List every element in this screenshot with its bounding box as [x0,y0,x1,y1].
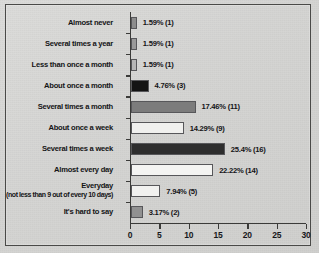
bar-row: It's hard to say3.17% (2) [6,202,310,223]
bar-value-label: 22.22% (14) [219,166,258,175]
bar[interactable] [131,38,137,50]
bar-row: Several times a month17.46% (11) [6,96,310,117]
x-axis-tick [218,224,219,229]
category-label: Less than once a month [0,60,113,69]
category-label: It's hard to say [0,208,113,217]
bar-container: 1.59% (1) [131,17,174,29]
bar[interactable] [131,59,137,71]
category-label: Almost every day [0,166,113,175]
x-axis-tick [130,224,131,229]
x-axis-tick [247,224,248,229]
category-label: Everyday(not less than 9 out of every 10… [0,183,113,201]
bar[interactable] [131,164,213,176]
bar-container: 22.22% (14) [131,164,258,176]
scanned-page: 051015202530Almost never1.59% (1)Several… [0,0,319,253]
chart-frame: 051015202530Almost never1.59% (1)Several… [5,4,311,246]
bar-container: 4.76% (3) [131,80,185,92]
bar[interactable] [131,101,196,113]
bar-row: Less than once a month1.59% (1) [6,54,310,75]
bar-value-label: 1.59% (1) [143,18,174,27]
bar-row: Several times a year1.59% (1) [6,33,310,54]
bar[interactable] [131,143,225,155]
bar-row: Almost every day22.22% (14) [6,160,310,181]
bar[interactable] [131,80,149,92]
bar-value-label: 3.17% (2) [149,208,180,217]
bar-row: Almost never1.59% (1) [6,12,310,33]
bar[interactable] [131,185,160,197]
bar-row: Everyday(not less than 9 out of every 10… [6,181,310,202]
bar-value-label: 1.59% (1) [143,60,174,69]
bar-value-label: 25.4% (16) [231,145,266,154]
category-label: Several times a year [0,39,113,48]
bar-value-label: 7.94% (5) [166,187,197,196]
category-label: Several times a week [0,145,113,154]
bar-value-label: 4.76% (3) [155,81,186,90]
bar-container: 1.59% (1) [131,59,174,71]
x-axis-tick-label: 10 [179,230,199,240]
x-axis-tick [306,224,307,229]
category-label: About once a week [0,124,113,133]
bar-container: 25.4% (16) [131,143,266,155]
bar-value-label: 14.29% (9) [190,124,225,133]
category-label: Several times a month [0,102,113,111]
bar[interactable] [131,206,143,218]
x-axis-tick [159,224,160,229]
x-axis-tick-label: 20 [237,230,257,240]
x-axis-tick [277,224,278,229]
bar-container: 1.59% (1) [131,38,174,50]
bar[interactable] [131,122,184,134]
bar-value-label: 1.59% (1) [143,39,174,48]
x-axis-tick [189,224,190,229]
bar[interactable] [131,17,137,29]
bar-value-label: 17.46% (11) [202,102,240,111]
bar-row: About once a week14.29% (9) [6,118,310,139]
x-axis-tick-label: 15 [208,230,228,240]
x-axis-tick-label: 0 [120,230,140,240]
category-label: Almost never [0,18,113,27]
category-label: About once a month [0,81,113,90]
x-axis-tick-label: 25 [267,230,287,240]
bar-row: Several times a week25.4% (16) [6,139,310,160]
x-axis-tick-label: 5 [149,230,169,240]
x-axis-tick-label: 30 [296,230,316,240]
bar-container: 17.46% (11) [131,101,240,113]
category-sublabel: (not less than 9 out of every 10 days) [0,191,113,200]
bar-container: 3.17% (2) [131,206,179,218]
bar-container: 7.94% (5) [131,185,197,197]
bar-row: About once a month4.76% (3) [6,75,310,96]
bar-chart-plot-area: 051015202530Almost never1.59% (1)Several… [6,5,310,245]
bar-container: 14.29% (9) [131,122,224,134]
